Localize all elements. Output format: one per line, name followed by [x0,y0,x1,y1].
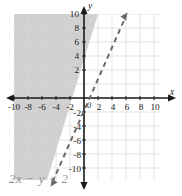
y-tick-label-10: 10 [70,9,80,19]
y-tick-label-neg10: -10 [69,164,82,174]
coordinate-plane: -10 -8 -6 -4 -2 2 4 6 8 10 10 8 6 4 2 -2… [0,0,182,196]
y-axis-arrow-top [80,6,87,14]
x-tick-label-4: 4 [111,102,116,112]
x-tick-label-10: 10 [150,102,160,112]
x-tick-label-neg10: -10 [8,102,21,112]
y-tick-label-2: 2 [74,65,79,75]
y-axis-arrow-bottom [80,182,87,190]
y-tick-label-neg2: -2 [73,108,81,118]
x-tick-label-6: 6 [125,102,130,112]
x-tick-label-2: 2 [97,102,102,112]
x-axis-arrow-left [6,94,14,101]
x-tick-label-neg8: -8 [24,102,32,112]
x-tick-label-neg4: -4 [52,102,60,112]
x-axis-name: x [169,87,175,97]
inequality-caption: 2x − y < 2 [9,172,68,187]
y-tick-label-neg6: -6 [73,136,81,146]
inequality-graph-figure: -10 -8 -6 -4 -2 2 4 6 8 10 10 8 6 4 2 -2… [0,0,182,196]
boundary-line-arrow-upper [121,13,128,21]
y-tick-label-neg8: -8 [73,150,81,160]
origin-label: 0 [87,101,92,110]
y-tick-label-4: 4 [74,51,79,61]
y-tick-label-8: 8 [74,23,79,33]
y-axis-name: y [87,1,93,11]
x-tick-label-8: 8 [139,102,144,112]
y-tick-label-6: 6 [74,37,79,47]
x-tick-label-neg6: -6 [38,102,46,112]
